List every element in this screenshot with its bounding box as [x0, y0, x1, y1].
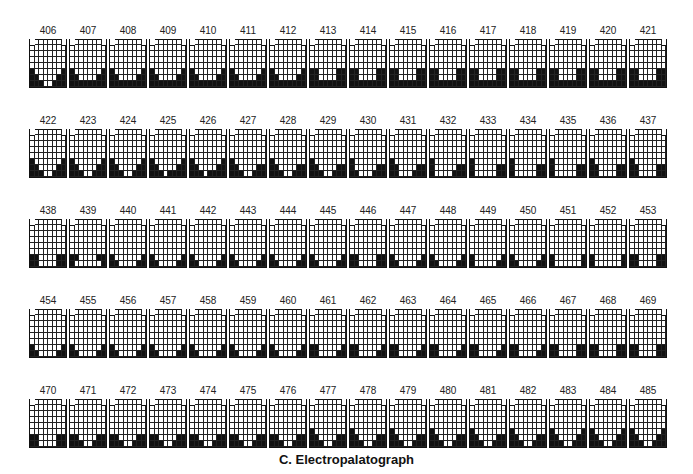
frame-number: 427: [228, 115, 268, 129]
palatogram-frame: 406: [28, 25, 68, 115]
palatogram-frame: 409: [148, 25, 188, 115]
palatogram-frame: 426: [188, 115, 228, 205]
contact-electrode: [382, 81, 387, 87]
palatogram-frame: 422: [28, 115, 68, 205]
contact-electrode: [382, 261, 387, 267]
frame-number: 433: [468, 115, 508, 129]
palatogram: [469, 399, 507, 448]
palatogram-frame: 444: [268, 205, 308, 295]
contact-electrode: [342, 351, 347, 357]
palatogram: [629, 129, 667, 178]
frame-row: 4224234244254264274284294304314324334344…: [28, 115, 678, 205]
frame-number: 474: [188, 385, 228, 399]
palatogram: [349, 309, 387, 358]
contact-electrode: [462, 81, 467, 87]
palatogram-frame: 417: [468, 25, 508, 115]
palatogram: [309, 219, 347, 268]
contact-electrode: [62, 351, 67, 357]
palatogram-frame: 446: [348, 205, 388, 295]
palatogram-frame: 413: [308, 25, 348, 115]
palatogram: [109, 309, 147, 358]
contact-electrode: [142, 81, 147, 87]
palatogram: [29, 309, 67, 358]
contact-electrode: [422, 441, 427, 447]
contact-electrode: [462, 171, 467, 177]
contact-electrode: [222, 171, 227, 177]
palatogram-frame: 433: [468, 115, 508, 205]
palatogram: [349, 129, 387, 178]
contact-electrode: [262, 351, 267, 357]
palatogram: [269, 39, 307, 88]
frame-number: 432: [428, 115, 468, 129]
palatogram: [389, 39, 427, 88]
palatogram: [549, 39, 587, 88]
palatogram-frame: 435: [548, 115, 588, 205]
contact-electrode: [62, 441, 67, 447]
frame-row: 4064074084094104114124134144154164174184…: [28, 25, 678, 115]
contact-electrode: [542, 81, 547, 87]
palatogram: [149, 129, 187, 178]
contact-electrode: [622, 171, 627, 177]
palatogram: [629, 309, 667, 358]
frame-number: 407: [68, 25, 108, 39]
palatogram: [429, 39, 467, 88]
palatogram-frame: 441: [148, 205, 188, 295]
palatogram-frame: 440: [108, 205, 148, 295]
palatogram-frame: 415: [388, 25, 428, 115]
contact-electrode: [502, 171, 507, 177]
frame-number: 436: [588, 115, 628, 129]
frame-number: 485: [628, 385, 668, 399]
frame-number: 413: [308, 25, 348, 39]
frame-number: 456: [108, 295, 148, 309]
palatogram: [629, 399, 667, 448]
frame-number: 461: [308, 295, 348, 309]
contact-electrode: [102, 171, 107, 177]
contact-electrode: [422, 351, 427, 357]
contact-electrode: [542, 351, 547, 357]
frame-number: 469: [628, 295, 668, 309]
palatogram: [269, 219, 307, 268]
palatogram-frame: 436: [588, 115, 628, 205]
palatogram-frame: 461: [308, 295, 348, 385]
palatogram: [29, 129, 67, 178]
palatogram: [309, 309, 347, 358]
palatogram: [149, 39, 187, 88]
frame-number: 482: [508, 385, 548, 399]
palatogram-frame: 407: [68, 25, 108, 115]
palatogram: [269, 129, 307, 178]
palatogram-grid: 4064074084094104114124134144154164174184…: [28, 25, 678, 474]
frame-number: 467: [548, 295, 588, 309]
palatogram: [189, 39, 227, 88]
palatogram: [309, 39, 347, 88]
contact-electrode: [662, 351, 667, 357]
palatogram-frame: 450: [508, 205, 548, 295]
palatogram-frame: 453: [628, 205, 668, 295]
palatogram-frame: 448: [428, 205, 468, 295]
frame-number: 445: [308, 205, 348, 219]
frame-number: 470: [28, 385, 68, 399]
frame-number: 478: [348, 385, 388, 399]
contact-electrode: [102, 441, 107, 447]
palatogram-frame: 412: [268, 25, 308, 115]
contact-electrode: [502, 351, 507, 357]
palatogram: [389, 219, 427, 268]
palatogram: [69, 39, 107, 88]
contact-electrode: [262, 171, 267, 177]
contact-electrode: [182, 261, 187, 267]
frame-number: 422: [28, 115, 68, 129]
frame-number: 480: [428, 385, 468, 399]
contact-electrode: [662, 261, 667, 267]
contact-electrode: [102, 351, 107, 357]
palatogram: [229, 309, 267, 358]
palatogram-frame: 460: [268, 295, 308, 385]
palatogram: [109, 39, 147, 88]
frame-number: 451: [548, 205, 588, 219]
frame-number: 483: [548, 385, 588, 399]
palatogram-frame: 451: [548, 205, 588, 295]
palatogram-frame: 418: [508, 25, 548, 115]
palatogram: [109, 399, 147, 448]
contact-electrode: [102, 261, 107, 267]
palatogram-frame: 439: [68, 205, 108, 295]
palatogram-frame: 457: [148, 295, 188, 385]
frame-number: 444: [268, 205, 308, 219]
